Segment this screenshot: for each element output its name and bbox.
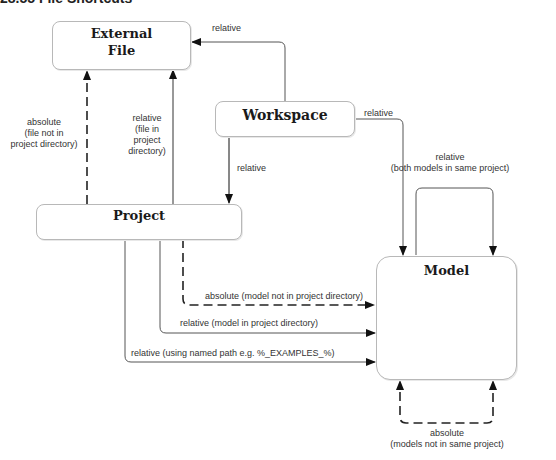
label-project-to-external-relative: relative (file in project directory) (124, 113, 170, 157)
label-model-self-relative: relative (both models in same project) (390, 152, 510, 174)
external-file-node: External File (52, 21, 191, 70)
label-model-self-absolute: absolute (models not in same project) (385, 428, 509, 450)
label-project-to-external-absolute: absolute (file not in project directory) (3, 117, 85, 150)
label-workspace-to-model: relative (364, 108, 393, 119)
edge-workspace-to-model (354, 119, 403, 255)
external-file-label-1: External (53, 26, 190, 41)
project-node: Project (36, 204, 242, 240)
edge-model-self-absolute (400, 392, 493, 423)
edge-workspace-to-external (192, 42, 285, 101)
label-project-to-model-absolute: absolute (model not in project directory… (205, 291, 363, 302)
label-project-to-model-relative: relative (model in project directory) (180, 318, 318, 329)
model-node: Model (376, 256, 517, 380)
label-project-to-model-named-path: relative (using named path e.g. %_EXAMPL… (131, 348, 335, 359)
external-file-label-2: File (53, 43, 190, 58)
label-workspace-to-external: relative (212, 23, 241, 34)
workspace-label: Workspace (216, 107, 354, 123)
edge-model-self-relative (416, 188, 493, 255)
model-label: Model (377, 263, 516, 278)
label-workspace-to-project: relative (237, 163, 266, 174)
project-label: Project (37, 208, 241, 223)
workspace-node: Workspace (215, 101, 355, 137)
